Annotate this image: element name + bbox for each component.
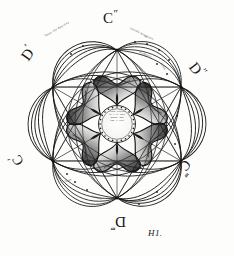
- plate-signature: H1.: [148, 229, 162, 238]
- medallion-inscription: cento circulo In y la linea ondula don c…: [101, 110, 133, 134]
- label-bottom: D‴: [111, 214, 126, 232]
- label-top-mark: ″: [114, 7, 119, 19]
- label-top-letter: C: [103, 10, 114, 26]
- label-bottom-letter: D: [115, 214, 126, 230]
- label-bottom-mark: ‴: [111, 221, 116, 233]
- label-top: C″: [103, 8, 118, 26]
- engraving-plate: cento circulo In y la linea ondula don c…: [0, 0, 234, 256]
- medallion-line-4: con il cent: [101, 119, 133, 122]
